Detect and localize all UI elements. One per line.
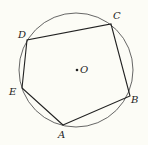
inscribed-pentagon-diagram: O A B C D E: [0, 0, 148, 145]
pentagon-abcde: [22, 24, 130, 125]
label-e: E: [8, 86, 17, 97]
label-c: C: [113, 10, 121, 21]
label-d: D: [17, 29, 26, 40]
center-point-o: [76, 69, 79, 72]
label-b: B: [130, 94, 138, 105]
label-a: A: [57, 129, 65, 140]
label-o: O: [80, 64, 88, 75]
